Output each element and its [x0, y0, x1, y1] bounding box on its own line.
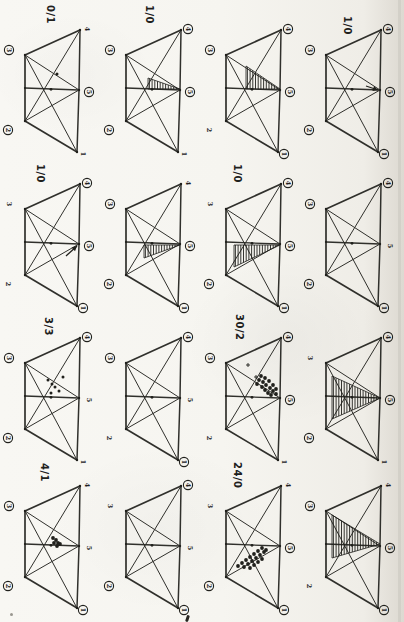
node-number: 5: [85, 398, 93, 402]
graph-edge: [226, 30, 281, 55]
crossing-dot: [50, 88, 53, 91]
graph-edge: [380, 338, 381, 398]
vertex-dot: [180, 183, 182, 185]
graph-edges: [326, 338, 381, 460]
crossing-dot: [50, 544, 53, 547]
data-point: [261, 380, 265, 384]
node-number: 5: [286, 546, 294, 550]
data-point: [257, 378, 261, 382]
vertex-dot: [125, 362, 127, 364]
node-1: 1: [279, 605, 288, 614]
node-number: 4: [184, 27, 192, 32]
node-number: 1: [180, 608, 188, 612]
vertex-dots: [24, 485, 81, 609]
data-point: [242, 565, 246, 569]
graph-edges: [326, 486, 381, 608]
node-5: 5: [186, 546, 194, 550]
vertex-dot: [78, 545, 80, 547]
graph-edge: [378, 244, 380, 306]
graph-edge: [326, 184, 381, 209]
node-number: 2: [4, 128, 12, 132]
graph-edge: [126, 244, 180, 275]
graph-edge: [178, 244, 180, 306]
data-point: [246, 562, 250, 566]
graph-edges: [25, 486, 80, 608]
count-label: 1/0: [232, 164, 243, 183]
node-number: 2: [305, 584, 313, 588]
node-number: 2: [105, 282, 113, 286]
vertex-dot: [125, 395, 127, 397]
graph-edge: [25, 398, 79, 429]
node-2: 2: [4, 282, 12, 286]
node-5: 5: [386, 244, 394, 248]
node-2: 2: [305, 584, 313, 588]
node-5: 5: [385, 543, 394, 552]
node-5: 5: [84, 241, 93, 250]
data-point: [268, 386, 272, 390]
network-graph: 123451/0: [304, 2, 404, 160]
graph-edges: [226, 338, 281, 460]
graph-edge: [326, 398, 380, 429]
vertex-dot: [225, 54, 227, 56]
network-graph: 123453/3: [3, 310, 103, 468]
graph-edge: [326, 244, 380, 275]
vertex-dot: [325, 362, 327, 364]
vertex-dot: [125, 241, 127, 243]
graph-edge: [126, 546, 180, 577]
node-number: 5: [386, 546, 394, 550]
vertex-dot: [379, 243, 381, 245]
node-number: 1: [79, 608, 87, 612]
graph-edge: [77, 398, 79, 460]
graph-edge: [178, 90, 180, 152]
node-number: 2: [105, 584, 113, 588]
network-graph: 123451/0: [204, 156, 304, 314]
node-4: 4: [183, 24, 192, 33]
vertex-dots: [125, 29, 182, 153]
data-point: [259, 374, 263, 378]
data-point: [244, 558, 248, 562]
node-number: 2: [305, 282, 313, 286]
node-5: 5: [285, 543, 294, 552]
vertex-dot: [325, 208, 327, 210]
graph-edge: [77, 546, 79, 608]
data-point: [274, 387, 278, 391]
vertex-dot: [380, 337, 382, 339]
node-number: 3: [206, 48, 214, 53]
vertex-dot: [279, 397, 281, 399]
vertex-dot: [225, 208, 227, 210]
data-point: [50, 392, 53, 395]
node-5: 5: [385, 395, 394, 404]
graph-edge: [326, 363, 380, 398]
vertex-dot: [78, 89, 80, 91]
node-number: 3: [306, 504, 314, 509]
graph-edge: [25, 209, 79, 244]
vertex-dot: [76, 607, 78, 609]
node-number: 5: [286, 90, 294, 94]
vertex-dot: [325, 543, 327, 545]
graph-edges: [226, 30, 281, 152]
node-number: 5: [386, 90, 394, 94]
network-graph: 12345: [104, 458, 204, 616]
graph-edge: [178, 398, 180, 460]
node-1: 1: [179, 605, 188, 614]
node-3: 3: [105, 199, 114, 208]
crossing-dot: [50, 396, 53, 399]
graph-edge: [79, 184, 80, 244]
node-3: 3: [4, 45, 13, 54]
vertex-dot: [79, 337, 81, 339]
graph-edge: [79, 338, 80, 398]
node-number: 3: [5, 202, 13, 207]
node-number: 5: [85, 90, 93, 94]
vertex-dot: [325, 241, 327, 243]
node-4: 4: [283, 178, 292, 187]
count-label: 1/0: [342, 16, 353, 35]
node-4: 4: [283, 332, 292, 341]
network-graph: 12345: [104, 156, 204, 314]
node-number: 5: [286, 244, 294, 248]
vertex-dot: [325, 510, 327, 512]
graph-edges: [25, 338, 80, 460]
data-point: [54, 386, 57, 389]
vertex-dot: [177, 607, 179, 609]
vertex-dot: [280, 485, 282, 487]
data-point: [47, 379, 50, 382]
